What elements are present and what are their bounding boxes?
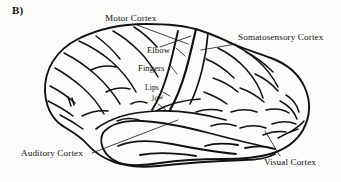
parietal-sulci: [196, 42, 299, 128]
label-jaw: Jaw: [150, 93, 164, 102]
leader-lines: [92, 25, 280, 156]
label-somatosensory-cortex: Somatosensory Cortex: [238, 33, 323, 42]
label-fingers: Fingers: [138, 64, 164, 73]
label-motor-cortex: Motor Cortex: [105, 14, 156, 23]
label-lips: Lips: [145, 84, 159, 92]
occipital-sulci: [263, 101, 304, 138]
leader-elbow: [176, 48, 185, 56]
leader-auditory-cortex: [92, 120, 178, 153]
frontal-sulci: [48, 27, 158, 129]
brain-diagram-figure: B): [0, 0, 341, 182]
leader-fingers: [170, 65, 177, 74]
label-visual-cortex: Visual Cortex: [264, 158, 316, 167]
label-auditory-cortex: Auditory Cortex: [21, 149, 83, 158]
label-elbow: Elbow: [147, 46, 170, 55]
